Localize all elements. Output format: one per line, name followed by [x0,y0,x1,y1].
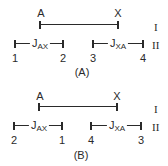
num-2: 2 [60,53,66,64]
row-i-line [39,106,117,107]
j-ax-label: JAX [30,38,50,52]
num-3: 3 [90,53,96,64]
row-i-line [40,24,118,25]
row-i-label: I [154,22,158,33]
tick-1 [61,122,63,130]
num-1: 1 [59,135,65,146]
num-4: 4 [140,53,146,64]
caption-a: (A) [75,67,90,78]
row-ii-label: II [152,40,159,51]
row-ii-label: II [152,122,159,133]
tick-3 [140,122,142,130]
atom-x-label: X [113,91,120,102]
tick-2 [62,40,64,48]
num-4: 4 [88,135,94,146]
atom-a-label: A [36,91,43,102]
num-3: 3 [138,135,144,146]
caption-b: (B) [74,150,89,161]
j-ax-label: JAX [29,120,49,134]
num-2: 2 [11,135,17,146]
j-xa-label: JXA [108,38,128,52]
tick-2 [13,122,15,130]
tick-4 [90,122,92,130]
tick-3 [92,40,94,48]
tick-x [116,103,118,111]
row-i-label: I [154,104,158,115]
tick-4 [142,40,144,48]
atom-x-label: X [114,8,121,19]
num-1: 1 [12,53,18,64]
tick-x [117,21,119,29]
j-xa-label: JXA [107,120,127,134]
tick-a [38,103,40,111]
atom-a-label: A [37,8,44,19]
tick-1 [14,40,16,48]
tick-a [39,21,41,29]
